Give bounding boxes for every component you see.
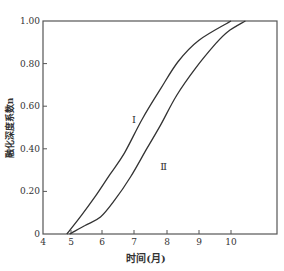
y-tick-label: 1.00 xyxy=(20,16,40,26)
curve-label-2: Ⅱ xyxy=(160,161,167,172)
curve-1 xyxy=(67,21,231,234)
x-tick-label: 8 xyxy=(164,237,170,247)
x-tick-label: 6 xyxy=(99,237,105,247)
y-tick-label: 0 xyxy=(34,229,40,239)
x-tick-label: 9 xyxy=(196,237,202,247)
curve-2 xyxy=(70,21,246,234)
y-tick-label: 0.60 xyxy=(20,101,40,111)
y-tick-label: 0.40 xyxy=(20,144,40,154)
x-axis-ticks: 45678910 xyxy=(40,230,237,247)
melt-depth-chart: 45678910 00.200.400.600.801.00 ⅠⅡ 时间(月) … xyxy=(0,0,284,271)
plot-border xyxy=(43,21,277,234)
curve-label-1: Ⅰ xyxy=(132,114,136,125)
x-tick-label: 4 xyxy=(40,237,46,247)
y-tick-label: 0.20 xyxy=(20,186,40,196)
plot-frame xyxy=(43,21,277,234)
curves: ⅠⅡ xyxy=(67,21,246,234)
x-axis-label: 时间(月) xyxy=(126,252,165,264)
x-tick-label: 7 xyxy=(131,237,137,247)
x-tick-label: 10 xyxy=(225,237,237,247)
y-axis-label: 融化深度系数n xyxy=(4,97,15,158)
x-tick-label: 5 xyxy=(68,237,74,247)
y-tick-label: 0.80 xyxy=(20,59,40,69)
